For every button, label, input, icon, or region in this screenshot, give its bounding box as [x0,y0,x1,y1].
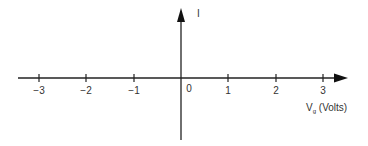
x-tick-label: −3 [33,86,44,96]
x-tick-label: −2 [80,86,91,96]
x-tick-label: 2 [273,86,279,96]
x-axis-label-subscript: g [313,108,316,114]
x-tick-label: 3 [320,86,326,96]
x-axis-label: Vg (Volts) [306,103,347,114]
x-axis-label-main: V [306,102,313,113]
y-axis-arrow-icon [177,8,185,22]
x-tick-label: 1 [225,86,231,96]
x-axis-label-units: (Volts) [319,102,347,113]
x-tick-label: −1 [128,86,139,96]
x-axis-arrow-icon [334,74,348,83]
axes [0,0,368,146]
y-axis-label: I [197,9,200,19]
x-tick-label: 0 [186,84,192,94]
